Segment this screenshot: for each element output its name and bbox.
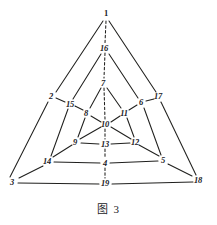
edge-16-6 — [109, 54, 138, 98]
edge-5-18 — [168, 164, 192, 176]
edge-6-5 — [144, 108, 161, 155]
node-label-12: 12 — [131, 138, 139, 147]
node-label-11: 11 — [120, 109, 128, 118]
edge-17-18 — [161, 102, 196, 175]
edge-9-10 — [80, 127, 101, 139]
edge-11-12 — [127, 118, 134, 137]
edge-10-11 — [111, 116, 120, 122]
node-label-5: 5 — [161, 156, 165, 165]
edge-8-9 — [78, 118, 85, 137]
node-label-6: 6 — [139, 98, 143, 107]
edge-7-8 — [90, 88, 101, 108]
node-label-3: 3 — [10, 178, 14, 187]
edge-14-4 — [54, 162, 100, 163]
node-label-10: 10 — [101, 120, 109, 129]
edge-4-5 — [110, 161, 158, 163]
edge-14-3 — [19, 166, 43, 178]
edge-16-7-dashed — [104, 53, 105, 78]
node-label-8: 8 — [84, 109, 88, 118]
node-label-4: 4 — [103, 159, 107, 168]
edge-13-12 — [111, 143, 130, 144]
node-label-14: 14 — [43, 157, 51, 166]
edge-2-3 — [10, 102, 48, 177]
edge-8-15 — [75, 106, 83, 110]
caption-number: 3 — [114, 203, 121, 215]
edge-15-2 — [56, 98, 65, 102]
edge-19-18 — [112, 182, 193, 184]
node-label-1: 1 — [104, 9, 108, 18]
figure-container: 11672158101161791312144531918 图 3 — [0, 0, 217, 225]
edge-1-2 — [56, 21, 103, 92]
node-label-18: 18 — [194, 176, 202, 185]
edge-9-14 — [53, 145, 72, 157]
edge-7-10-dashed — [104, 88, 105, 119]
node-label-19: 19 — [101, 179, 109, 188]
node-label-2: 2 — [49, 92, 53, 101]
figure-caption: 图 3 — [0, 200, 217, 216]
edge-11-6 — [129, 105, 137, 110]
edge-1-16-dashed — [105, 21, 106, 43]
node-label-13: 13 — [101, 140, 109, 149]
edge-1-17 — [109, 21, 156, 92]
edge-6-17 — [146, 99, 154, 101]
node-label-17: 17 — [154, 92, 162, 101]
edge-12-5 — [139, 145, 159, 156]
edge-8-10 — [91, 116, 101, 122]
edge-7-11 — [107, 88, 121, 108]
edge-10-12 — [111, 127, 131, 139]
node-label-15: 15 — [66, 100, 74, 109]
graph-drawing — [0, 0, 217, 195]
node-label-16: 16 — [100, 44, 108, 53]
edge-9-13 — [81, 143, 99, 144]
node-label-9: 9 — [73, 138, 77, 147]
edge-3-19 — [18, 183, 99, 184]
caption-label: 图 — [97, 203, 109, 216]
node-label-7: 7 — [101, 79, 105, 88]
